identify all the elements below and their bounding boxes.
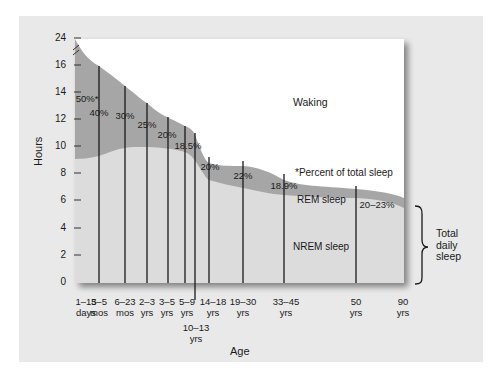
x-tick-label: 3–5yrs <box>159 297 175 318</box>
rem-percent-label: 20% <box>200 161 219 172</box>
rem-percent-label: 18.5% <box>175 140 202 151</box>
y-tick-label: 24 <box>44 32 66 43</box>
y-tick-label: 0 <box>44 276 66 287</box>
y-tick-label: 8 <box>44 167 66 178</box>
y-tick-label: 16 <box>44 59 66 70</box>
x-tick-label: 14–18yrs <box>200 297 226 318</box>
x-axis-title: Age <box>230 346 250 357</box>
x-tick-label: 90yrs <box>397 297 410 318</box>
x-tick-label: 6–23mos <box>114 297 135 318</box>
x-tick-label: 3–5mos <box>90 297 108 318</box>
rem-percent-label: 22% <box>233 170 252 181</box>
rem-sleep-label: REM sleep <box>297 194 346 205</box>
x-tick-label: 2–3yrs <box>139 297 155 318</box>
y-tick-label: 10 <box>44 140 66 151</box>
rem-percent-label: 20–23% <box>360 199 395 210</box>
x-tick-label: 50yrs <box>350 297 363 318</box>
y-tick-label: 12 <box>44 113 66 124</box>
y-tick-label: 6 <box>44 194 66 205</box>
brace-icon <box>415 206 428 284</box>
x-tick-label: 5–9yrs <box>179 297 195 318</box>
total-daily-sleep-label: Total daily sleep <box>436 228 461 263</box>
rem-percent-label: 25% <box>137 119 156 130</box>
rem-percent-label: 40% <box>89 107 108 118</box>
waking-label: Waking <box>293 97 328 108</box>
rem-percent-label: 30% <box>115 110 134 121</box>
y-tick-label: 2 <box>44 249 66 260</box>
x-tick-label: 33–45yrs <box>273 297 299 318</box>
rem-percent-label: 50%* <box>76 93 99 104</box>
y-tick-label: 4 <box>44 222 66 233</box>
x-label-10-13-yrs: 10–13 yrs <box>183 323 209 344</box>
rem-percent-label: 20% <box>157 129 176 140</box>
rem-percent-label: 18.9% <box>271 180 298 191</box>
sleep-chart <box>0 0 499 380</box>
y-axis-title: Hours <box>33 137 44 166</box>
nrem-sleep-label: NREM sleep <box>293 241 349 252</box>
footnote-label: *Percent of total sleep <box>295 167 393 178</box>
x-tick-label: 19–30yrs <box>230 297 256 318</box>
y-tick-label: 14 <box>44 86 66 97</box>
